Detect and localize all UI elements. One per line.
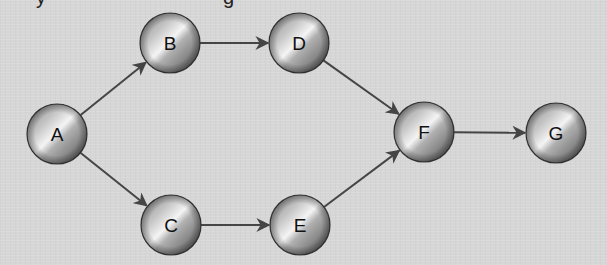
flow-diagram: ABCDEFG (0, 0, 607, 265)
nodes: ABCDEFG (27, 13, 586, 255)
node-label: D (292, 33, 306, 54)
node-g: G (526, 103, 586, 163)
node-a: A (27, 104, 87, 164)
edge-d-to-f (323, 60, 398, 114)
node-label: A (51, 124, 64, 145)
node-d: D (269, 13, 329, 73)
node-label: C (164, 215, 178, 236)
edge-f-to-g (454, 132, 525, 133)
node-b: B (140, 13, 200, 73)
node-label: G (549, 123, 564, 144)
node-label: B (164, 33, 177, 54)
node-label: F (418, 122, 430, 143)
node-f: F (394, 102, 454, 162)
edge-e-to-f (324, 151, 399, 207)
node-e: E (270, 195, 330, 255)
edge-a-to-c (80, 153, 146, 206)
node-c: C (141, 195, 201, 255)
edge-a-to-b (80, 62, 145, 115)
node-label: E (294, 215, 307, 236)
